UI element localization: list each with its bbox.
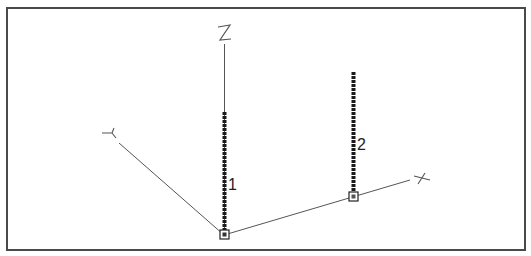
- y-axis: [119, 143, 224, 235]
- z-axis-label: Z: [0, 0, 231, 40]
- x-axis: [224, 180, 410, 235]
- y-axis-label: Y: [0, 0, 116, 138]
- x-axis-label: X: [0, 0, 430, 184]
- x-node-marker[interactable]: [349, 192, 358, 201]
- member-2-label: 2: [357, 136, 366, 153]
- model-view-canvas[interactable]: Z Y X 1 2: [0, 0, 531, 256]
- origin-node-marker[interactable]: [220, 230, 229, 239]
- member-1[interactable]: [223, 112, 227, 232]
- member-1-label: 1: [228, 176, 237, 193]
- member-2[interactable]: [352, 72, 356, 194]
